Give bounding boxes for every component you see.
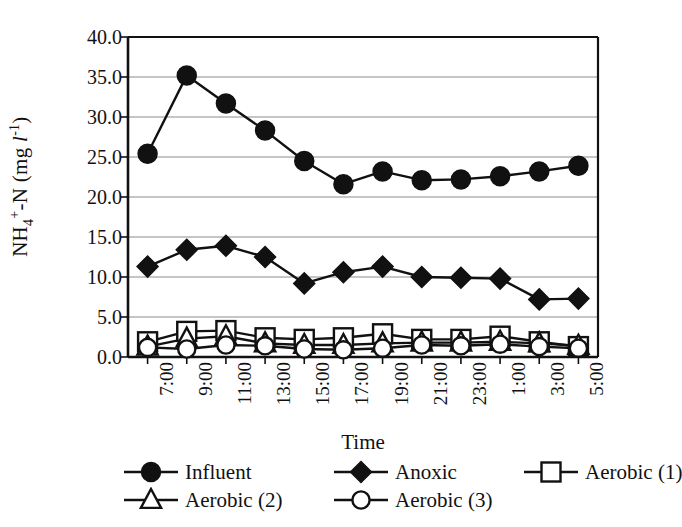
series-line (148, 246, 579, 300)
series-influent (148, 75, 579, 184)
legend-item[interactable]: Aerobic (2) (122, 486, 282, 514)
marker-filled-diamond (411, 267, 432, 288)
x-tick-label: 13:00 (274, 362, 293, 432)
marker-open-square (373, 324, 392, 343)
y-axis-label-tail: -N (mg (8, 142, 32, 211)
marker-open-circle (413, 336, 430, 353)
marker-filled-diamond (294, 273, 315, 294)
y-axis-label-base: NH (8, 226, 32, 257)
legend-row: Aerobic (2)Aerobic (3) (22, 486, 642, 514)
marker-filled-diamond (215, 235, 236, 256)
marker-open-circle (256, 337, 273, 354)
series-aerobic-1 (148, 331, 579, 347)
marker-filled-circle (142, 463, 161, 482)
legend-row: InfluentAnoxicAerobic (1) (22, 458, 642, 486)
marker-filled-diamond (568, 288, 589, 309)
marker-filled-circle (256, 121, 275, 140)
marker-filled-circle (569, 156, 588, 175)
marker-filled-circle (216, 94, 235, 113)
marker-filled-circle (177, 66, 196, 85)
marker-open-circle (335, 341, 352, 358)
marker-filled-diamond (176, 239, 197, 260)
marker-open-square (542, 463, 561, 482)
series-line (148, 331, 579, 347)
legend-item[interactable]: Aerobic (3) (332, 486, 492, 514)
legend-label: Aerobic (2) (185, 488, 282, 513)
marker-open-circle (374, 340, 391, 357)
y-axis-tick-labels: 0.0 5.0 10.0 15.0 20.0 25.0 30.0 35.0 40… (50, 0, 122, 380)
marker-filled-circle (138, 144, 157, 163)
y-tick-label: 15.0 (56, 227, 122, 247)
marker-filled-circle (451, 170, 470, 189)
series-markers (137, 235, 589, 310)
x-tick-label: 1:00 (509, 362, 528, 432)
marker-open-triangle (177, 328, 197, 347)
marker-filled-diamond (333, 262, 354, 283)
legend-label: Aerobic (3) (395, 488, 492, 513)
marker-open-square (138, 332, 157, 351)
marker-open-square (491, 327, 510, 346)
legend-marker-sample (522, 459, 580, 485)
marker-open-triangle (216, 325, 236, 344)
marker-open-triangle (333, 334, 353, 353)
x-tick-label: 3:00 (548, 362, 567, 432)
marker-open-square (412, 330, 431, 349)
marker-filled-diamond (351, 462, 372, 483)
marker-open-square (256, 328, 275, 347)
series-anoxic (148, 246, 579, 300)
y-tick-label: 0.0 (56, 347, 122, 367)
y-axis-label-container: NH4+-N (mg l-1) (0, 0, 46, 380)
legend-item[interactable]: Anoxic (332, 458, 457, 486)
x-axis-tick-labels: 7:009:0011:0013:0015:0017:0019:0021:0023… (128, 362, 598, 432)
marker-open-square (569, 337, 588, 356)
series-markers (138, 321, 588, 356)
y-axis-label-close-paren: ) (8, 116, 32, 123)
x-tick-label: 9:00 (196, 362, 215, 432)
y-tick-label: 35.0 (56, 67, 122, 87)
chart-legend: InfluentAnoxicAerobic (1)Aerobic (2)Aero… (22, 458, 642, 520)
marker-filled-circle (373, 162, 392, 181)
marker-open-triangle (141, 489, 161, 508)
series-markers (137, 325, 588, 354)
y-axis-label-unit: l (8, 136, 32, 142)
marker-open-square (530, 332, 549, 351)
x-tick-label: 5:00 (587, 362, 606, 432)
marker-open-circle (531, 338, 548, 355)
marker-open-circle (352, 491, 369, 508)
y-tick-label: 40.0 (56, 27, 122, 47)
marker-open-triangle (137, 336, 157, 355)
marker-filled-circle (412, 171, 431, 190)
marker-open-triangle (490, 331, 510, 350)
marker-open-triangle (568, 335, 588, 354)
marker-open-square (295, 330, 314, 349)
legend-item[interactable]: Aerobic (1) (522, 458, 682, 486)
marker-open-square (451, 330, 470, 349)
y-axis-label: NH4+-N (mg l-1) (7, 37, 36, 337)
marker-filled-circle (491, 167, 510, 186)
marker-filled-diamond (255, 247, 276, 268)
y-axis-label-subscript: 4 (21, 219, 36, 226)
x-tick-label: 15:00 (313, 362, 332, 432)
series-line (148, 75, 579, 184)
marker-filled-circle (295, 152, 314, 171)
series-line (148, 344, 579, 350)
marker-filled-diamond (490, 268, 511, 289)
x-tick-label: 7:00 (157, 362, 176, 432)
marker-open-triangle (451, 332, 471, 351)
y-axis-label-unit-exponent: -1 (7, 124, 22, 136)
marker-filled-diamond (529, 289, 550, 310)
marker-open-triangle (529, 332, 549, 351)
legend-item[interactable]: Influent (122, 458, 251, 486)
marker-filled-diamond (372, 256, 393, 277)
x-tick-label: 21:00 (431, 362, 450, 432)
marker-open-square (216, 321, 235, 340)
y-tick-label: 5.0 (56, 307, 122, 327)
y-axis-label-superscript: + (7, 211, 22, 219)
marker-open-circle (217, 336, 234, 353)
marker-open-triangle (412, 332, 432, 351)
marker-open-square (334, 328, 353, 347)
marker-open-circle (491, 336, 508, 353)
legend-label: Anoxic (395, 460, 457, 485)
marker-filled-diamond (450, 267, 471, 288)
